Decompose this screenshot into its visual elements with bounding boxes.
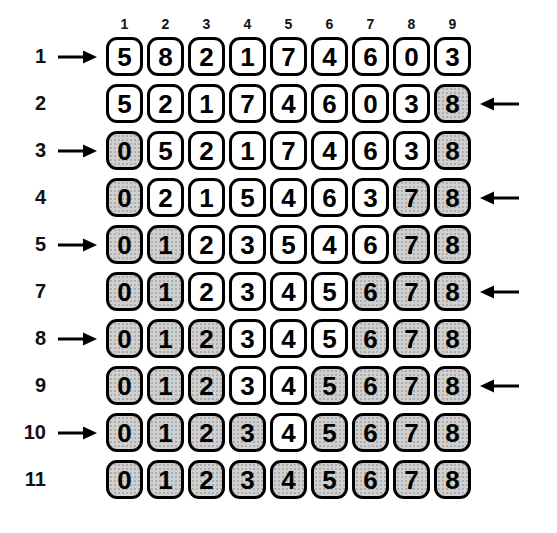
value-cell: 3: [393, 84, 430, 123]
value-cell: 7: [393, 178, 430, 217]
value-cell: 4: [270, 272, 307, 311]
value-cell: 4: [270, 460, 307, 499]
value-cell: 2: [188, 225, 225, 264]
value-cell: 1: [229, 37, 266, 76]
value-cell: 5: [106, 37, 143, 76]
value-cell: 7: [393, 460, 430, 499]
right-arrow-icon: [57, 49, 97, 65]
column-headers: 123456789: [106, 16, 471, 32]
value-cell: 6: [352, 319, 389, 358]
value-cell: 0: [393, 37, 430, 76]
value-cell: 7: [393, 319, 430, 358]
value-cell: 7: [393, 225, 430, 264]
right-arrow-slot: [471, 96, 529, 112]
value-cell: 5: [229, 178, 266, 217]
pass-row: 2521746038: [8, 80, 557, 127]
value-cell: 5: [311, 319, 348, 358]
pass-row: 4021546378: [8, 174, 557, 221]
value-cell: 8: [434, 131, 471, 170]
value-cell: 4: [311, 37, 348, 76]
value-cell: 1: [229, 131, 266, 170]
right-arrow-icon: [57, 237, 97, 253]
value-cell: 1: [188, 178, 225, 217]
column-header: 3: [188, 16, 225, 32]
cell-row: 582174603: [106, 37, 471, 76]
value-cell: 2: [188, 319, 225, 358]
column-header: 4: [229, 16, 266, 32]
value-cell: 2: [188, 131, 225, 170]
value-cell: 4: [270, 178, 307, 217]
value-cell: 3: [229, 272, 266, 311]
right-arrow-slot: [471, 190, 529, 206]
pass-row: 10012345678: [8, 409, 557, 456]
pass-rows: 1582174603252174603830521746384021546378…: [8, 33, 557, 503]
value-cell: 4: [270, 413, 307, 452]
cell-row: 012345678: [106, 366, 471, 405]
value-cell: 0: [106, 131, 143, 170]
pass-number-label: 10: [8, 421, 48, 444]
right-arrow-icon: [57, 143, 97, 159]
value-cell: 3: [229, 366, 266, 405]
value-cell: 3: [229, 413, 266, 452]
value-cell: 8: [434, 460, 471, 499]
pass-number-label: 7: [8, 280, 48, 303]
value-cell: 7: [229, 84, 266, 123]
value-cell: 5: [311, 366, 348, 405]
value-cell: 8: [434, 319, 471, 358]
pass-row: 9012345678: [8, 362, 557, 409]
pass-row: 8012345678: [8, 315, 557, 362]
value-cell: 4: [270, 319, 307, 358]
value-cell: 7: [270, 37, 307, 76]
pass-row: 7012345678: [8, 268, 557, 315]
value-cell: 8: [434, 366, 471, 405]
pass-number-label: 2: [8, 92, 48, 115]
column-header: 2: [147, 16, 184, 32]
left-arrow-slot: [48, 331, 106, 347]
cell-row: 021546378: [106, 178, 471, 217]
value-cell: 0: [106, 272, 143, 311]
value-cell: 0: [106, 319, 143, 358]
value-cell: 6: [352, 460, 389, 499]
value-cell: 1: [147, 272, 184, 311]
column-header: 6: [311, 16, 348, 32]
value-cell: 6: [352, 37, 389, 76]
value-cell: 2: [188, 413, 225, 452]
value-cell: 7: [393, 413, 430, 452]
left-arrow-icon: [480, 96, 520, 112]
pass-number-label: 3: [8, 139, 48, 162]
value-cell: 3: [229, 225, 266, 264]
right-arrow-icon: [57, 425, 97, 441]
value-cell: 4: [270, 366, 307, 405]
value-cell: 3: [393, 131, 430, 170]
column-header-row: 123456789: [8, 8, 557, 32]
left-arrow-slot: [48, 425, 106, 441]
cell-row: 052174638: [106, 131, 471, 170]
value-cell: 1: [147, 366, 184, 405]
cell-row: 521746038: [106, 84, 471, 123]
pass-number-label: 5: [8, 233, 48, 256]
pass-row: 11012345678: [8, 456, 557, 503]
value-cell: 0: [106, 366, 143, 405]
value-cell: 8: [434, 84, 471, 123]
value-cell: 5: [106, 84, 143, 123]
value-cell: 7: [393, 366, 430, 405]
left-arrow-icon: [480, 284, 520, 300]
right-arrow-icon: [57, 331, 97, 347]
value-cell: 3: [229, 319, 266, 358]
value-cell: 8: [147, 37, 184, 76]
value-cell: 0: [352, 84, 389, 123]
pass-number-label: 9: [8, 374, 48, 397]
value-cell: 1: [188, 84, 225, 123]
value-cell: 3: [434, 37, 471, 76]
value-cell: 4: [311, 225, 348, 264]
value-cell: 8: [434, 272, 471, 311]
pass-number-label: 11: [8, 468, 48, 491]
cell-row: 012354678: [106, 225, 471, 264]
value-cell: 1: [147, 225, 184, 264]
value-cell: 1: [147, 460, 184, 499]
left-arrow-slot: [48, 237, 106, 253]
cell-row: 012345678: [106, 319, 471, 358]
value-cell: 6: [352, 131, 389, 170]
left-arrow-icon: [480, 190, 520, 206]
value-cell: 6: [352, 225, 389, 264]
